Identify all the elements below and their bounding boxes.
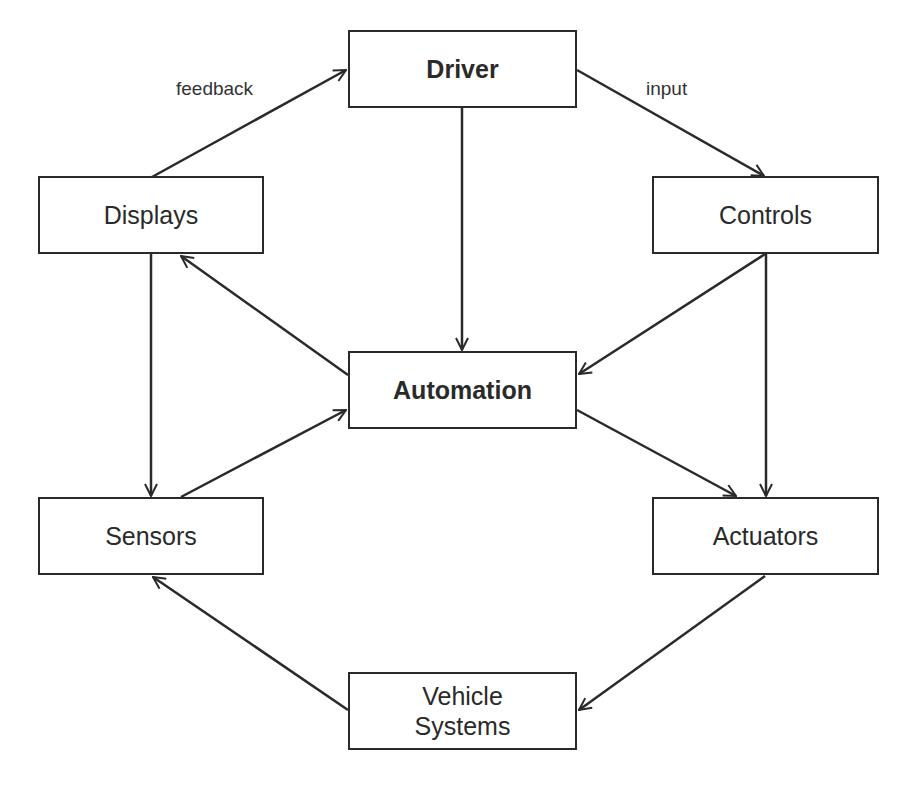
node-vehicle-systems-label-line2: Systems	[415, 711, 511, 741]
edge-vehicle-systems-to-sensors	[153, 577, 348, 710]
node-actuators-label: Actuators	[713, 521, 819, 551]
node-vehicle-systems: Vehicle Systems	[348, 672, 577, 750]
node-controls: Controls	[652, 176, 879, 254]
node-sensors: Sensors	[38, 497, 264, 575]
edge-controls-to-automation	[579, 254, 765, 374]
edge-actuators-to-vehicle-systems	[579, 576, 765, 710]
edge-automation-to-actuators	[577, 410, 736, 496]
edge-label-feedback: feedback	[176, 78, 253, 100]
edge-sensors-to-automation	[181, 410, 346, 497]
driver-automation-diagram: feedback input Driver Displays Controls …	[0, 0, 909, 788]
node-automation: Automation	[348, 351, 577, 429]
edge-label-input: input	[646, 78, 687, 100]
node-sensors-label: Sensors	[105, 521, 197, 551]
node-driver-label: Driver	[426, 54, 498, 84]
node-displays-label: Displays	[104, 200, 198, 230]
node-automation-label: Automation	[393, 375, 532, 405]
node-driver: Driver	[348, 30, 577, 108]
edge-automation-to-displays	[181, 256, 348, 375]
node-controls-label: Controls	[719, 200, 812, 230]
node-actuators: Actuators	[652, 497, 879, 575]
node-displays: Displays	[38, 176, 264, 254]
node-vehicle-systems-label-line1: Vehicle	[422, 681, 503, 711]
